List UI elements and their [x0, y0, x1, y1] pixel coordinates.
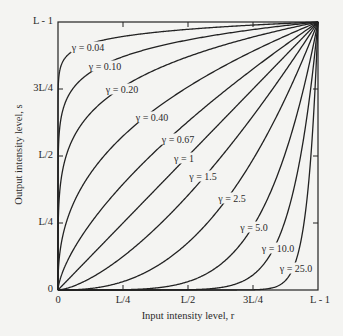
gamma-label: γ = 1.5	[188, 171, 218, 182]
gamma-label: γ = 25.0	[279, 263, 314, 274]
gamma-label: γ = 0.10	[88, 61, 123, 72]
x-tick-label: L/4	[103, 294, 143, 305]
y-tick-label: 0	[13, 283, 53, 294]
gamma-label: γ = 5.0	[239, 222, 269, 233]
gamma-label: γ = 0.04	[71, 42, 106, 53]
y-tick-label: L - 1	[13, 15, 53, 26]
x-tick-label: L/2	[168, 294, 208, 305]
gamma-label: γ = 10.0	[261, 243, 296, 254]
x-axis-title: Input intensity level, r	[118, 310, 258, 321]
x-tick-label: 0	[38, 294, 78, 305]
x-tick-label: L - 1	[300, 294, 340, 305]
gamma-label: γ = 0.67	[161, 134, 196, 145]
gamma-label: γ = 2.5	[217, 193, 247, 204]
gamma-label: γ = 1	[173, 153, 195, 164]
gamma-label: γ = 0.20	[105, 84, 140, 95]
gamma-label: γ = 0.40	[135, 112, 170, 123]
y-axis-title: Output intensity level, s	[13, 85, 24, 225]
x-tick-label: 3L/4	[233, 294, 273, 305]
